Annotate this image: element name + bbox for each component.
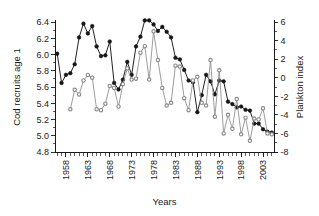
data-point-2 xyxy=(143,44,146,47)
y-axis-left-title: Cod recruits age 1 xyxy=(11,48,22,126)
data-point-1 xyxy=(108,40,112,44)
x-axis-tick-label: 1988 xyxy=(193,160,203,180)
data-point-2 xyxy=(112,86,115,89)
x-axis-tick-label: 1983 xyxy=(171,160,181,180)
data-point-1 xyxy=(174,56,178,60)
data-point-1 xyxy=(147,19,151,23)
data-point-1 xyxy=(152,23,156,27)
data-point-2 xyxy=(117,105,120,108)
data-point-2 xyxy=(147,78,150,81)
series-line-2 xyxy=(70,31,271,141)
data-point-1 xyxy=(90,24,94,28)
data-point-2 xyxy=(82,79,85,82)
data-point-1 xyxy=(239,105,243,109)
y-axis-right-tick-label: -6 xyxy=(281,129,289,139)
data-point-2 xyxy=(244,116,247,119)
data-point-2 xyxy=(191,79,194,82)
data-point-2 xyxy=(204,104,207,107)
x-axis-tick-label: 1963 xyxy=(83,160,93,180)
data-point-2 xyxy=(218,69,221,72)
data-point-1 xyxy=(187,79,191,83)
data-point-2 xyxy=(161,86,164,89)
data-point-2 xyxy=(248,139,251,142)
data-point-2 xyxy=(196,75,199,78)
x-axis-tick-label: 1998 xyxy=(236,160,246,180)
y-axis-right-tick-label: 4 xyxy=(281,36,286,46)
data-point-2 xyxy=(104,102,107,105)
data-point-1 xyxy=(134,45,138,49)
x-axis-tick-label: 1993 xyxy=(215,160,225,180)
x-axis-tick-label: 1968 xyxy=(105,160,115,180)
x-axis-tick-label: 2003 xyxy=(258,160,268,180)
data-point-1 xyxy=(156,29,160,33)
data-point-2 xyxy=(126,67,129,70)
data-point-1 xyxy=(204,73,208,77)
data-point-2 xyxy=(178,65,181,68)
y-axis-right-tick-label: 6 xyxy=(281,17,286,27)
y-axis-left-tick-label: 5.2 xyxy=(36,115,49,125)
data-point-2 xyxy=(152,30,155,33)
data-point-1 xyxy=(248,109,252,113)
y-axis-left-tick-label: 6.4 xyxy=(36,17,49,27)
y-axis-left-tick-label: 5.6 xyxy=(36,82,49,92)
data-point-2 xyxy=(183,96,186,99)
data-point-1 xyxy=(226,100,230,104)
data-point-2 xyxy=(174,64,177,67)
data-point-1 xyxy=(182,68,186,72)
x-axis-tick-label: 1973 xyxy=(127,160,137,180)
data-point-2 xyxy=(261,107,264,110)
chart-container: 4.85.05.25.45.65.86.06.26.4-8-6-4-202461… xyxy=(0,0,319,216)
data-point-2 xyxy=(253,117,256,120)
data-point-2 xyxy=(231,127,234,130)
data-point-2 xyxy=(169,101,172,104)
data-point-2 xyxy=(239,133,242,136)
data-point-1 xyxy=(169,36,173,40)
data-point-1 xyxy=(165,30,169,34)
data-point-1 xyxy=(99,54,103,58)
data-point-1 xyxy=(55,52,59,56)
y-axis-left-tick-label: 4.8 xyxy=(36,147,49,157)
data-point-2 xyxy=(108,84,111,87)
data-point-2 xyxy=(156,58,159,61)
y-axis-right-tick-label: 0 xyxy=(281,73,286,83)
x-axis-tick-label: 1958 xyxy=(61,160,71,180)
data-point-1 xyxy=(231,102,235,106)
data-point-2 xyxy=(187,109,190,112)
data-point-1 xyxy=(112,81,116,85)
data-point-1 xyxy=(77,36,81,40)
y-axis-left-tick-label: 5.4 xyxy=(36,99,49,109)
data-point-1 xyxy=(222,79,226,83)
data-point-1 xyxy=(143,19,147,23)
y-axis-right-tick-label: -8 xyxy=(281,147,289,157)
data-point-1 xyxy=(178,58,182,62)
data-point-1 xyxy=(95,45,99,49)
data-point-2 xyxy=(222,132,225,135)
data-point-1 xyxy=(244,108,248,112)
data-point-1 xyxy=(160,25,164,29)
y-axis-right-tick-label: -4 xyxy=(281,110,289,120)
y-axis-right-tick-label: 2 xyxy=(281,54,286,64)
data-point-1 xyxy=(257,122,261,126)
data-point-2 xyxy=(91,76,94,79)
x-axis-tick-label: 1978 xyxy=(149,160,159,180)
data-point-2 xyxy=(200,101,203,104)
y-axis-right-tick-label: -2 xyxy=(281,92,289,102)
data-point-1 xyxy=(139,35,143,39)
data-point-2 xyxy=(139,51,142,54)
data-point-2 xyxy=(209,58,212,61)
data-point-1 xyxy=(261,127,265,131)
data-point-2 xyxy=(86,73,89,76)
data-point-1 xyxy=(125,60,129,64)
data-point-2 xyxy=(73,88,76,91)
data-point-2 xyxy=(69,108,72,111)
data-point-2 xyxy=(257,118,260,121)
data-point-1 xyxy=(73,62,77,66)
data-point-1 xyxy=(104,53,108,57)
data-point-2 xyxy=(226,113,229,116)
data-point-1 xyxy=(60,81,64,85)
y-axis-left-tick-label: 5.8 xyxy=(36,66,49,76)
data-point-2 xyxy=(77,93,80,96)
data-point-2 xyxy=(235,97,238,100)
data-point-2 xyxy=(95,108,98,111)
data-point-1 xyxy=(82,22,86,26)
